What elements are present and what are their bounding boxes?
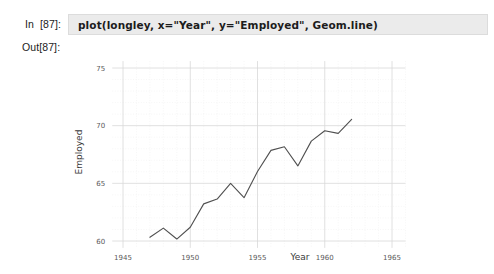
x-tick-label: 1960 <box>316 254 334 262</box>
notebook-cell: In [87]: plot(longley, x="Year", y="Empl… <box>0 0 494 274</box>
line-chart: 19451950195519601965 60657075 Year Emplo… <box>68 55 488 270</box>
minor-gridlines <box>112 61 405 248</box>
y-axis-title: Employed <box>74 130 84 175</box>
code-input-text: plot(longley, x="Year", y="Employed", Ge… <box>78 19 378 31</box>
y-tick-labels: 60657075 <box>96 65 105 246</box>
input-prompt-label: In <box>25 18 34 30</box>
y-tick-label: 60 <box>96 238 105 246</box>
input-prompt-number: [87]: <box>40 18 61 30</box>
output-prompt-label: Out[87]: <box>22 41 60 53</box>
y-tick-label: 65 <box>96 180 105 188</box>
y-tick-label: 75 <box>96 65 105 73</box>
x-tick-label: 1950 <box>181 254 199 262</box>
code-input-cell[interactable]: plot(longley, x="Year", y="Employed", Ge… <box>68 14 488 35</box>
x-tick-label: 1945 <box>114 254 132 262</box>
plot-output: 19451950195519601965 60657075 Year Emplo… <box>68 55 488 270</box>
x-tick-labels: 19451950195519601965 <box>114 254 401 262</box>
x-tick-label: 1955 <box>249 254 267 262</box>
x-axis-title: Year <box>289 252 309 262</box>
y-tick-label: 70 <box>96 122 105 130</box>
x-tick-label: 1965 <box>383 254 401 262</box>
major-gridlines <box>112 61 405 248</box>
